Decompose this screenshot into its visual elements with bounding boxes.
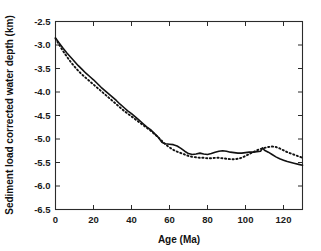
y-axis-tick-labels: -2.5-3.0-3.5-4.0-4.5-5.0-5.5-6.0-6.5	[34, 16, 51, 215]
y-tick-label: -6.5	[34, 204, 51, 215]
x-axis-title: Age (Ma)	[158, 234, 200, 245]
series-line-solid-curve	[56, 38, 303, 165]
y-tick-label: -2.5	[34, 16, 51, 27]
x-tick-label: 0	[53, 214, 58, 225]
axis-frame	[56, 22, 303, 210]
x-axis-tick-labels: 020406080100120	[53, 214, 292, 225]
y-tick-label: -5.5	[34, 157, 51, 168]
x-axis-ticks	[56, 22, 284, 210]
data-series-group	[56, 38, 303, 165]
plot-frame	[56, 22, 303, 210]
y-tick-label: -5.0	[34, 133, 50, 144]
x-tick-label: 100	[238, 214, 254, 225]
y-tick-label: -4.0	[34, 86, 50, 97]
series-line-dotted-curve	[56, 38, 303, 159]
y-tick-label: -4.5	[34, 110, 51, 121]
y-tick-label: -3.5	[34, 63, 51, 74]
chart-figure: 020406080100120 -2.5-3.0-3.5-4.0-4.5-5.0…	[0, 0, 321, 251]
y-tick-label: -6.0	[34, 180, 50, 191]
y-axis-ticks	[56, 22, 303, 210]
x-tick-label: 60	[164, 214, 175, 225]
chart-plot-area: 020406080100120 -2.5-3.0-3.5-4.0-4.5-5.0…	[0, 0, 321, 251]
y-axis-title: Sediment load corrected water depth (km)	[4, 15, 15, 215]
x-tick-label: 40	[126, 214, 137, 225]
x-tick-label: 80	[202, 214, 213, 225]
y-tick-label: -3.0	[34, 39, 50, 50]
x-tick-label: 120	[276, 214, 292, 225]
x-tick-label: 20	[88, 214, 99, 225]
